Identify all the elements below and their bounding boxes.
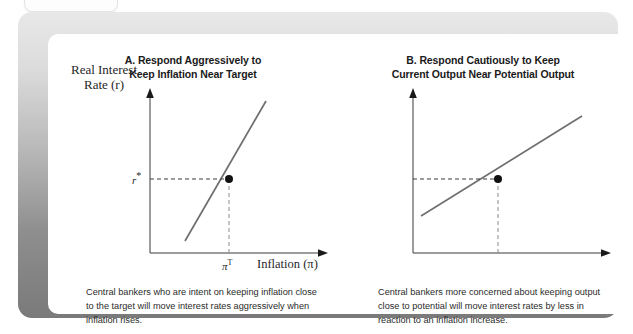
panel-a-x-axis-name: Inflation (π)	[257, 257, 318, 272]
panel-a-y-tick-superscript: *	[136, 170, 141, 181]
panel-a: A. Respond Aggressively to Keep Inflatio…	[48, 34, 338, 314]
panel-a-y-axis-label-line1: Real Interest	[71, 62, 137, 77]
panel-a-y-axis-label: Real Interest Rate (r)	[56, 62, 152, 92]
panel-a-plot	[48, 86, 338, 258]
panel-b-x-axis-arrow	[601, 249, 611, 257]
panel-b-plot	[338, 86, 628, 258]
panel-b-caption: Central bankers more concerned about kee…	[378, 285, 618, 327]
panel-b-y-axis-arrow	[409, 88, 417, 98]
panel-a-x-axis-arrow	[318, 249, 328, 257]
panel-a-y-tick-label: r*	[132, 170, 141, 186]
panel-b: B. Respond Cautiously to Keep Current Ou…	[338, 34, 628, 314]
panel-a-y-axis-label-line2: Rate (r)	[84, 77, 124, 92]
panel-a-chart-svg	[48, 86, 338, 258]
panel-b-title: B. Respond Cautiously to Keep Current Ou…	[338, 54, 628, 81]
panel-a-equilibrium-point	[225, 175, 233, 183]
panel-b-policy-rule-line	[421, 116, 582, 216]
figure-card: A. Respond Aggressively to Keep Inflatio…	[48, 34, 628, 314]
figure-outer-frame: A. Respond Aggressively to Keep Inflatio…	[18, 12, 618, 318]
panel-a-policy-rule-line	[185, 101, 266, 241]
panel-b-title-line2: Current Output Near Potential Output	[338, 68, 628, 82]
panel-b-title-line1: B. Respond Cautiously to Keep	[338, 54, 628, 68]
panel-a-x-tick-label: πT	[222, 258, 232, 272]
panel-a-x-tick-superscript: T	[228, 258, 233, 267]
panel-b-equilibrium-point	[494, 175, 502, 183]
panel-b-chart-svg	[338, 86, 628, 258]
browser-chrome-strip	[24, 0, 118, 12]
panel-a-caption: Central bankers who are intent on keepin…	[86, 285, 326, 327]
